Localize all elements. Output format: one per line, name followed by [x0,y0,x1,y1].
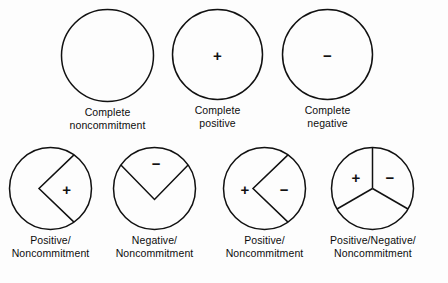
circle-wedge-right-icon [222,146,307,231]
caption-complete-noncommitment: Complete noncommitment [70,106,146,131]
circle-outline-icon [60,8,155,103]
diagram-item-negative-noncommitment: − Negative/ Noncommitment [112,146,197,259]
diagram-item-positive-noncommitment: + Positive/ Noncommitment [8,146,93,259]
spoke-line-lower-left [337,189,373,210]
spoke-line-lower-right [373,189,409,210]
plus-sign: + [352,169,361,184]
attitude-commitment-diagram: Complete noncommitment + Complete positi… [0,0,448,283]
minus-sign: − [323,47,332,62]
circle-positive-noncommitment: + [8,146,93,231]
caption-positive-noncommitment-2: Positive/ Noncommitment [226,234,304,259]
circle-complete-negative: − [281,8,374,101]
circle-positive-negative-noncommitment: + − [330,146,415,231]
diagram-item-positive-noncommitment-2: + − Positive/ Noncommitment [222,146,307,259]
minus-sign: − [280,181,289,196]
minus-sign: − [152,156,161,171]
plus-sign: + [213,47,222,62]
circle-negative-noncommitment: − [112,146,197,231]
plus-sign: + [241,181,250,196]
caption-negative-noncommitment: Negative/ Noncommitment [116,234,194,259]
diagram-item-positive-negative-noncommitment: + − Positive/Negative/ Noncommitment [330,146,416,259]
circle-wedge-right-icon [8,146,93,231]
circle-positive-noncommitment-2: + − [222,146,307,231]
circle-complete-noncommitment [60,8,155,103]
plus-sign: + [62,181,71,196]
caption-complete-negative: Complete negative [305,104,351,129]
circle-thirds-icon [330,146,415,231]
diagram-item-complete-positive: + Complete positive [171,8,264,129]
circle-complete-positive: + [171,8,264,101]
caption-complete-positive: Complete positive [195,104,241,129]
minus-sign: − [386,169,395,184]
caption-positive-negative-noncommitment: Positive/Negative/ Noncommitment [330,234,416,259]
diagram-item-complete-negative: − Complete negative [281,8,374,129]
diagram-item-complete-noncommitment: Complete noncommitment [60,8,155,131]
caption-positive-noncommitment: Positive/ Noncommitment [12,234,90,259]
